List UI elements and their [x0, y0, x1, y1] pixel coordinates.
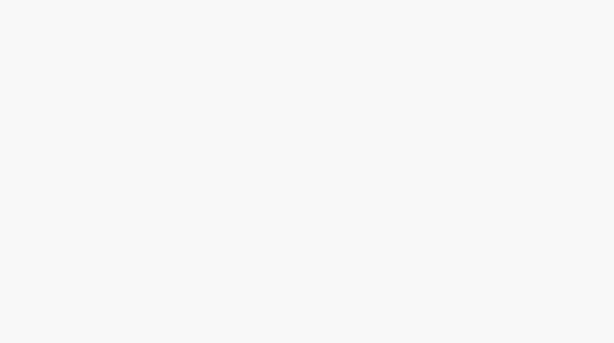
panel-united-states — [307, 0, 614, 343]
panel-india — [0, 0, 307, 343]
us-pyramid-chart — [307, 0, 614, 343]
india-pyramid-chart — [0, 0, 307, 343]
